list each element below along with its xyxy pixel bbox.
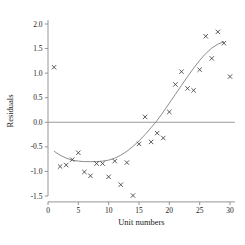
axes [45, 20, 235, 205]
data-point-marker [76, 151, 80, 155]
data-point-marker [210, 56, 214, 60]
y-axis-title: Residuals [5, 94, 15, 127]
data-point-marker [228, 74, 232, 78]
data-point-marker [143, 115, 147, 119]
y-tick-label: 1.5 [33, 44, 43, 53]
data-point-marker [216, 30, 220, 34]
data-point-marker [155, 131, 159, 135]
data-point-marker [100, 161, 104, 165]
data-point-marker [106, 175, 110, 179]
x-tick-label: 10 [105, 206, 113, 215]
data-point-marker [131, 193, 135, 197]
x-axis-title: Unit numbers [118, 217, 165, 227]
y-tick-label: 0.0 [33, 118, 43, 127]
data-point-marker [179, 69, 183, 73]
data-point-marker [167, 110, 171, 114]
x-tick-label: 5 [76, 206, 80, 215]
y-tick-label: 1.0 [33, 69, 43, 78]
data-point-marker [58, 164, 62, 168]
data-point-marker [222, 41, 226, 45]
data-point-marker [82, 170, 86, 174]
x-tick-label: 20 [166, 206, 174, 215]
data-point-marker [125, 160, 129, 164]
x-tick-label: 30 [226, 206, 234, 215]
data-point-marker [191, 88, 195, 92]
data-point-marker [185, 86, 189, 90]
data-point-marker [137, 142, 141, 146]
data-point-marker [149, 140, 153, 144]
residual-plot: -1.5-1.0-0.50.00.51.01.52.0051015202530U… [0, 0, 245, 245]
chart-canvas: -1.5-1.0-0.50.00.51.01.52.0051015202530U… [0, 0, 245, 245]
x-tick-label: 0 [46, 206, 50, 215]
axis-labels: -1.5-1.0-0.50.00.51.01.52.0051015202530U… [5, 20, 234, 227]
y-tick-label: -1.0 [31, 167, 43, 176]
data-point-marker [52, 65, 56, 69]
x-tick-label: 15 [135, 206, 143, 215]
data-point-marker [204, 34, 208, 38]
data-point-marker [64, 163, 68, 167]
y-tick-label: -0.5 [31, 142, 43, 151]
y-tick-label: 0.5 [33, 93, 43, 102]
data-point-marker [173, 82, 177, 86]
data-point-marker [113, 159, 117, 163]
data-point-marker [161, 136, 165, 140]
y-tick-label: 2.0 [33, 20, 43, 29]
data-point-marker [119, 182, 123, 186]
data-point-marker [197, 68, 201, 72]
data-point-marker [88, 174, 92, 178]
y-tick-label: -1.5 [31, 192, 43, 201]
x-tick-label: 25 [196, 206, 204, 215]
